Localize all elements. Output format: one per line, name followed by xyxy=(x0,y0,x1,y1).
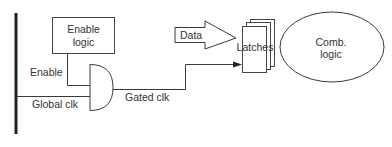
enable-wire xyxy=(68,54,91,86)
comb-logic-label-line2: logic xyxy=(320,48,342,60)
comb-logic-block: Comb. logic xyxy=(280,12,384,82)
enable-logic-block: Enable logic xyxy=(53,18,115,54)
data-arrow: Data xyxy=(175,21,236,49)
gated-clk-arrowhead-icon xyxy=(233,62,242,68)
data-arrow-label: Data xyxy=(180,29,202,41)
and-gate-icon xyxy=(90,65,113,111)
clock-gating-diagram: Enable logic Enable Global clk Gated clk… xyxy=(0,0,392,147)
global-clk-label: Global clk xyxy=(32,98,79,110)
enable-signal-label: Enable xyxy=(30,66,63,78)
gated-clk-label: Gated clk xyxy=(125,91,170,103)
comb-logic-label-line1: Comb. xyxy=(316,36,347,48)
latches-block: Latches xyxy=(237,20,275,73)
gated-clk-wire xyxy=(113,65,238,90)
latches-label: Latches xyxy=(237,41,274,53)
enable-logic-label-line2: logic xyxy=(73,36,95,48)
enable-logic-label-line1: Enable xyxy=(67,23,100,35)
